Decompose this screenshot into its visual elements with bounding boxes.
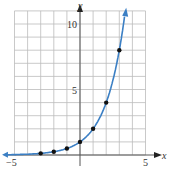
data-point bbox=[39, 151, 43, 155]
data-point bbox=[65, 146, 69, 150]
data-point bbox=[78, 140, 82, 144]
x-axis-arrow-icon bbox=[154, 152, 162, 158]
curve-arrow-top-icon bbox=[122, 8, 128, 17]
y-tick-max: 10 bbox=[67, 20, 77, 30]
data-point bbox=[91, 127, 95, 131]
y-tick-mid: 5 bbox=[72, 86, 77, 96]
data-point bbox=[117, 48, 121, 52]
x-tick-min: −5 bbox=[6, 158, 17, 168]
x-tick-max: 5 bbox=[143, 158, 148, 168]
y-axis-label: y bbox=[78, 1, 82, 11]
chart-plot bbox=[0, 0, 174, 176]
x-axis-label: x bbox=[162, 151, 166, 161]
data-point bbox=[52, 150, 56, 154]
data-point bbox=[104, 100, 108, 104]
